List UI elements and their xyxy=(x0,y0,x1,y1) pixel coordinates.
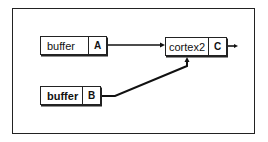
cortex2-node[interactable]: cortex2 C xyxy=(165,37,227,56)
buffer-b-node[interactable]: buffer B xyxy=(40,86,101,105)
connection-lines xyxy=(0,0,268,142)
port-a[interactable]: A xyxy=(89,37,106,54)
node-label: buffer xyxy=(41,87,83,104)
node-label: buffer xyxy=(41,37,89,54)
buffer-a-node[interactable]: buffer A xyxy=(40,36,107,55)
port-b[interactable]: B xyxy=(83,87,100,104)
node-label: cortex2 xyxy=(166,38,209,55)
port-c[interactable]: C xyxy=(209,38,226,55)
